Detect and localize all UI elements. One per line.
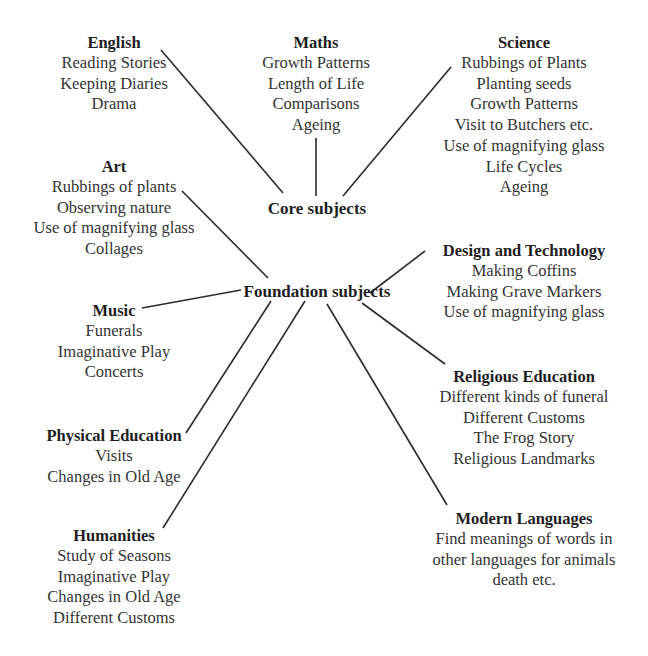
subject-item: Life Cycles — [444, 157, 605, 178]
subject-item: Imaginative Play — [58, 342, 170, 363]
subject-item: Different Customs — [47, 608, 180, 629]
subject-title: Physical Education — [46, 425, 181, 446]
hub-foundation-subjects: Foundation subjects — [244, 282, 391, 302]
subject-item: death etc. — [433, 570, 616, 591]
subject-title: Art — [34, 156, 195, 177]
subject-node-art: ArtRubbings of plantsObserving natureUse… — [34, 156, 195, 260]
subject-node-science: ScienceRubbings of PlantsPlanting seedsG… — [444, 32, 605, 198]
subject-item: Religious Landmarks — [440, 449, 609, 470]
subject-title: Design and Technology — [443, 240, 605, 261]
subject-node-physical-education: Physical EducationVisitsChanges in Old A… — [46, 425, 181, 487]
subject-item: Drama — [60, 94, 168, 115]
subject-node-religious-education: Religious EducationDifferent kinds of fu… — [440, 366, 609, 470]
subject-item: other languages for animals — [433, 550, 616, 571]
subject-item: Concerts — [58, 362, 170, 383]
connector-modern-languages-to-foundation — [327, 304, 447, 505]
subject-title: Maths — [262, 32, 370, 53]
subject-item: Different kinds of funeral — [440, 387, 609, 408]
subject-item: Making Grave Markers — [443, 282, 605, 303]
subject-item: Changes in Old Age — [47, 587, 180, 608]
subject-item: The Frog Story — [440, 428, 609, 449]
subject-item: Observing nature — [34, 198, 195, 219]
subject-item: Keeping Diaries — [60, 74, 168, 95]
subject-title: Music — [58, 300, 170, 321]
subject-item: Length of Life — [262, 74, 370, 95]
subject-item: Rubbings of Plants — [444, 53, 605, 74]
subject-node-design-technology: Design and TechnologyMaking CoffinsMakin… — [443, 240, 605, 323]
subject-item: Reading Stories — [60, 53, 168, 74]
subject-item: Use of magnifying glass — [443, 302, 605, 323]
subject-item: Growth Patterns — [262, 53, 370, 74]
subject-node-music: MusicFuneralsImaginative PlayConcerts — [58, 300, 170, 383]
subject-title: Religious Education — [440, 366, 609, 387]
connector-physical-education-to-foundation — [186, 301, 271, 433]
subject-item: Visits — [46, 446, 181, 467]
subject-title: Humanities — [47, 525, 180, 546]
subject-item: Ageing — [262, 115, 370, 136]
subject-node-maths: MathsGrowth PatternsLength of LifeCompar… — [262, 32, 370, 136]
subject-item: Different Customs — [440, 408, 609, 429]
subject-item: Comparisons — [262, 94, 370, 115]
subject-title: Science — [444, 32, 605, 53]
subject-item: Collages — [34, 239, 195, 260]
subject-node-modern-languages: Modern LanguagesFind meanings of words i… — [433, 508, 616, 591]
hub-core-subjects: Core subjects — [268, 199, 366, 219]
subject-item: Rubbings of plants — [34, 177, 195, 198]
subject-item: Growth Patterns — [444, 94, 605, 115]
subject-item: Ageing — [444, 177, 605, 198]
subject-item: Planting seeds — [444, 74, 605, 95]
subject-item: Use of magnifying glass — [444, 136, 605, 157]
connector-art-to-foundation — [182, 191, 268, 278]
subject-item: Making Coffins — [443, 261, 605, 282]
subject-item: Visit to Butchers etc. — [444, 115, 605, 136]
subject-node-english: EnglishReading StoriesKeeping DiariesDra… — [60, 32, 168, 115]
subject-title: English — [60, 32, 168, 53]
connector-religious-education-to-foundation — [362, 303, 445, 364]
subject-node-humanities: HumanitiesStudy of SeasonsImaginative Pl… — [47, 525, 180, 629]
subject-item: Changes in Old Age — [46, 467, 181, 488]
subject-item: Funerals — [58, 321, 170, 342]
subject-item: Study of Seasons — [47, 546, 180, 567]
subject-title: Modern Languages — [433, 508, 616, 529]
connector-humanities-to-foundation — [163, 301, 305, 528]
subject-item: Imaginative Play — [47, 567, 180, 588]
subject-item: Find meanings of words in — [433, 529, 616, 550]
subject-item: Use of magnifying glass — [34, 218, 195, 239]
